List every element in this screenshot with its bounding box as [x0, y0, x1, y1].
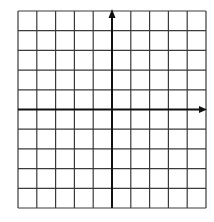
coordinate-grid	[0, 0, 214, 222]
axes	[18, 9, 207, 208]
y-axis-arrow-icon	[109, 9, 116, 18]
